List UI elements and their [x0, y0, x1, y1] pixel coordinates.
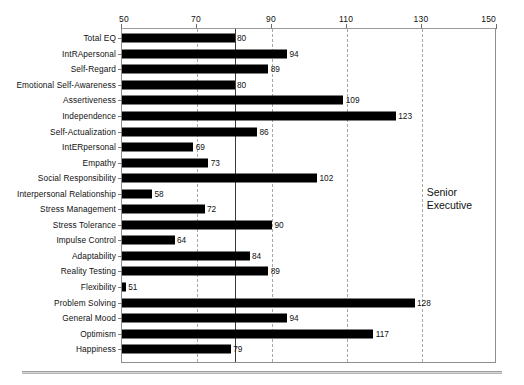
bar — [122, 65, 268, 74]
category-label: Stress Tolerance — [53, 220, 116, 230]
x-tick-label-110: 110 — [339, 14, 353, 24]
bar-row: Independence123 — [122, 108, 495, 124]
bar — [122, 111, 396, 120]
category-label: IntERpersonal — [62, 142, 116, 152]
bar-row: Optimism117 — [122, 326, 495, 342]
bar — [122, 267, 268, 276]
bar — [122, 329, 373, 338]
bar-value-label: 72 — [207, 204, 216, 214]
bar — [122, 282, 126, 291]
category-label: Social Responsibility — [38, 173, 116, 183]
bar — [122, 314, 287, 323]
senior-executive-annotation: Senior Executive — [427, 186, 473, 212]
bar-value-label: 69 — [196, 142, 205, 152]
category-label: Independence — [62, 111, 116, 121]
x-tick-label-90: 90 — [266, 14, 276, 24]
x-tick-label-150: 150 — [481, 14, 496, 24]
bar-value-label: 117 — [376, 329, 389, 339]
category-label: Self-Regard — [71, 64, 116, 74]
x-tick-label-50: 50 — [119, 14, 129, 24]
bar-value-label: 51 — [128, 282, 137, 292]
x-tick-label-130: 130 — [414, 14, 429, 24]
bar-row: Adaptability84 — [122, 248, 495, 264]
bar — [122, 143, 193, 152]
bar-value-label: 80 — [237, 80, 246, 90]
bar-value-label: 64 — [177, 235, 186, 245]
bar-row: Emotional Self-Awareness80 — [122, 77, 495, 93]
bar — [122, 345, 231, 354]
category-label: Problem Solving — [54, 298, 116, 308]
category-label: Flexibility — [81, 282, 116, 292]
bar-value-label: 89 — [271, 266, 280, 276]
bar-value-label: 94 — [290, 313, 299, 323]
bar-row: IntRApersonal94 — [122, 46, 495, 62]
bar-row: Stress Tolerance90 — [122, 217, 495, 233]
bar — [122, 189, 152, 198]
category-label: Optimism — [80, 329, 116, 339]
bar-value-label: 79 — [233, 344, 242, 354]
category-label: General Mood — [62, 313, 116, 323]
bar-value-label: 80 — [237, 33, 246, 43]
bar-row: Self-Regard89 — [122, 62, 495, 78]
bar-value-label: 123 — [398, 111, 412, 121]
bar-value-label: 128 — [417, 298, 431, 308]
bar-value-label: 84 — [252, 251, 261, 261]
bar — [122, 96, 343, 105]
bar-row: Self-Actualization86 — [122, 124, 495, 140]
category-label: Happiness — [76, 344, 116, 354]
bar — [122, 251, 250, 260]
category-label: Stress Management — [40, 204, 116, 214]
bar-value-label: 86 — [260, 127, 269, 137]
bar-row: Assertiveness109 — [122, 93, 495, 109]
bar-row: IntERpersonal69 — [122, 139, 495, 155]
category-label: Self-Actualization — [50, 127, 116, 137]
category-label: IntRApersonal — [62, 49, 116, 59]
bar — [122, 298, 415, 307]
bar-row: Happiness79 — [122, 341, 495, 357]
category-label: Reality Testing — [61, 266, 116, 276]
bar — [122, 220, 272, 229]
bar — [122, 174, 317, 183]
bar-value-label: 73 — [211, 158, 220, 168]
bar-row: Total EQ80 — [122, 31, 495, 47]
category-label: Empathy — [83, 158, 116, 168]
bar-value-label: 102 — [320, 173, 334, 183]
category-label: Total EQ — [83, 33, 116, 43]
eq-profile-bar-chart: 507090110130150 Total EQ80IntRApersonal9… — [0, 0, 524, 385]
bar-row: Impulse Control64 — [122, 233, 495, 249]
category-label: Impulse Control — [56, 235, 116, 245]
bar-value-label: 89 — [271, 64, 280, 74]
bar-row: Flexibility51 — [122, 279, 495, 295]
bottom-divider-rule — [22, 371, 502, 374]
category-label: Assertiveness — [63, 95, 116, 105]
x-tick-label-70: 70 — [191, 14, 201, 24]
bar — [122, 205, 205, 214]
category-label: Emotional Self-Awareness — [16, 80, 116, 90]
bar-row: Social Responsibility102 — [122, 170, 495, 186]
bar-row: Empathy73 — [122, 155, 495, 171]
bar — [122, 158, 208, 167]
category-label: Adaptability — [72, 251, 116, 261]
bar — [122, 127, 257, 136]
bar-row: Problem Solving128 — [122, 295, 495, 311]
bar — [122, 80, 235, 89]
bar-row: Reality Testing89 — [122, 264, 495, 280]
bar-value-label: 90 — [275, 220, 284, 230]
bar-value-label: 109 — [346, 95, 360, 105]
bar-row: General Mood94 — [122, 310, 495, 326]
bar-value-label: 58 — [155, 189, 164, 199]
bar-value-label: 94 — [290, 49, 299, 59]
category-label: Interpersonal Relationship — [17, 189, 116, 199]
bar — [122, 49, 287, 58]
bar — [122, 34, 235, 43]
bar — [122, 236, 175, 245]
x-tick-mark-150 — [496, 24, 497, 29]
